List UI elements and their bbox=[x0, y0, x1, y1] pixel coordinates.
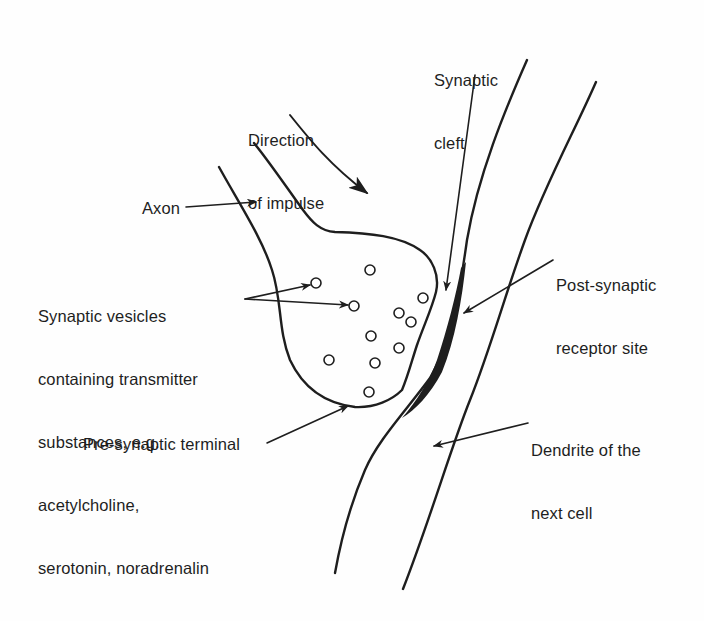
label-line: of impulse bbox=[248, 193, 324, 214]
label-line: acetylcholine, bbox=[38, 495, 209, 516]
label-line: Direction bbox=[248, 130, 324, 151]
label-line: Post-synaptic bbox=[556, 275, 656, 296]
label-line: receptor site bbox=[556, 338, 656, 359]
label-line: Synaptic vesicles bbox=[38, 306, 209, 327]
label-synaptic-cleft: Synaptic cleft bbox=[434, 28, 498, 196]
label-line: Dendrite of the bbox=[531, 440, 641, 461]
dendrite-arrow bbox=[434, 423, 528, 446]
label-line: cleft bbox=[434, 133, 498, 154]
label-line: serotonin, noradrenalin bbox=[38, 558, 209, 579]
label-axon: Axon bbox=[142, 198, 180, 219]
label-dendrite: Dendrite of the next cell bbox=[531, 398, 641, 566]
label-direction-of-impulse: Direction of impulse bbox=[248, 88, 324, 256]
pre-synaptic-arrow bbox=[267, 406, 348, 443]
label-line: Synaptic bbox=[434, 70, 498, 91]
label-line: containing transmitter bbox=[38, 369, 209, 390]
synaptic-vesicles bbox=[311, 265, 428, 397]
receptor-thickening bbox=[402, 262, 466, 418]
vesicle-arrow-lower bbox=[245, 299, 348, 305]
axon-arrow bbox=[186, 202, 256, 207]
label-post-synaptic-receptor-site: Post-synaptic receptor site bbox=[556, 233, 656, 401]
receptor-site-arrow bbox=[464, 260, 553, 313]
label-line: next cell bbox=[531, 503, 641, 524]
synapse-diagram: Direction of impulse Synaptic cleft Axon… bbox=[0, 0, 704, 621]
label-pre-synaptic-terminal: Pre-synaptic terminal bbox=[83, 434, 240, 455]
